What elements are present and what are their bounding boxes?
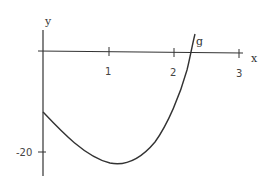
x-tick-label-1: 1 — [105, 66, 111, 77]
x-axis — [38, 51, 243, 53]
curve-g — [43, 34, 195, 164]
curve-label-g: g — [196, 35, 203, 48]
x-tick-label-2: 2 — [170, 67, 176, 78]
y-axis-label: y — [44, 15, 52, 28]
x-axis-label: x — [251, 52, 258, 65]
y-tick-label-neg20: -20 — [16, 147, 32, 158]
graph-of-g: y x g 1 2 3 -20 — [0, 0, 269, 181]
x-tick-label-3: 3 — [236, 68, 242, 79]
